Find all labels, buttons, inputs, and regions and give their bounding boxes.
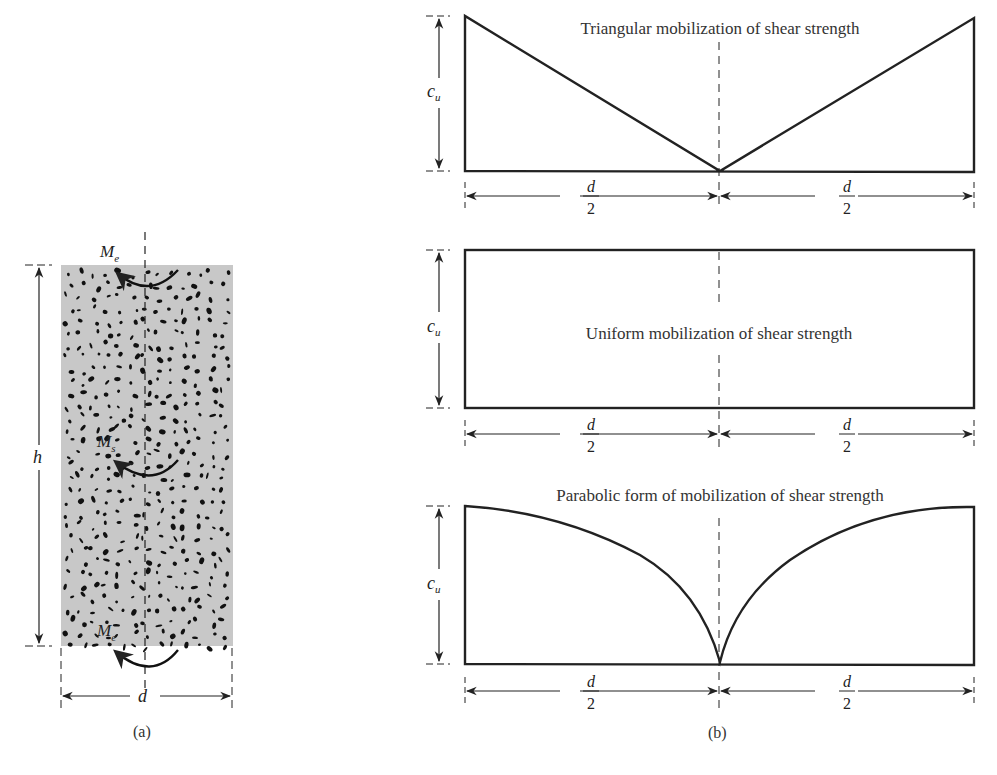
cu-label: cu — [427, 316, 441, 338]
cu-label: cu — [427, 81, 441, 103]
fraction-numerator: d — [587, 416, 596, 433]
half-width-dimension: d 2 d 2 — [465, 416, 974, 455]
cu-label: cu — [427, 573, 441, 595]
diagram-title-triangular: Triangular mobilization of shear strengt… — [581, 19, 860, 38]
diagram-title-uniform: Uniform mobilization of shear strength — [586, 324, 853, 343]
soil-cylinder — [61, 265, 233, 646]
fraction-denominator: 2 — [843, 438, 851, 455]
fraction-denominator: 2 — [587, 200, 595, 217]
diagram-uniform: Uniform mobilization of shear strength c… — [426, 250, 974, 455]
triangular-distribution-shape — [465, 16, 974, 172]
fraction-numerator: d — [587, 673, 596, 690]
diagram-parabolic: Parabolic form of mobilization of shear … — [426, 486, 974, 742]
fraction-denominator: 2 — [843, 200, 851, 217]
fraction-numerator: d — [843, 178, 852, 195]
panel-b-caption: (b) — [708, 724, 727, 742]
fraction-denominator: 2 — [843, 695, 851, 712]
fraction-numerator: d — [843, 673, 852, 690]
height-label: h — [33, 447, 42, 467]
moment-arrow-bottom-icon — [116, 650, 178, 667]
moment-label-top: Me — [99, 242, 119, 264]
parabolic-distribution-shape — [465, 506, 974, 665]
diagram-title-parabolic: Parabolic form of mobilization of shear … — [556, 486, 884, 505]
width-label: d — [138, 686, 148, 706]
fraction-numerator: d — [843, 416, 852, 433]
panel-a-soil-column: Me Ms Me h d (a) — [25, 232, 233, 741]
fraction-numerator: d — [587, 178, 596, 195]
fraction-denominator: 2 — [587, 695, 595, 712]
fraction-denominator: 2 — [587, 438, 595, 455]
diagram-triangular: Triangular mobilization of shear strengt… — [426, 16, 974, 217]
figure-canvas: Me Ms Me h d (a) Triangular mobilization… — [0, 0, 997, 775]
panel-a-caption: (a) — [133, 723, 151, 741]
